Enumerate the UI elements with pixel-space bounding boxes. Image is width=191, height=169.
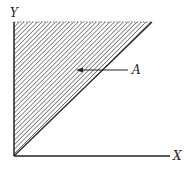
- y-axis-label: Y: [10, 6, 19, 20]
- region-label-a: A: [131, 63, 141, 77]
- x-axis-label: X: [172, 149, 182, 163]
- diagram-canvas: Y X A: [0, 0, 191, 169]
